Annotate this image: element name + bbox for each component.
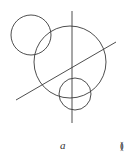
large-center-circle [34,26,106,98]
upper-left-circle [11,15,51,55]
caption-label: (a) [60,139,66,151]
caption-letter: a [60,139,66,151]
diagonal-line [16,42,116,100]
caption-close-paren: ) [120,139,124,151]
